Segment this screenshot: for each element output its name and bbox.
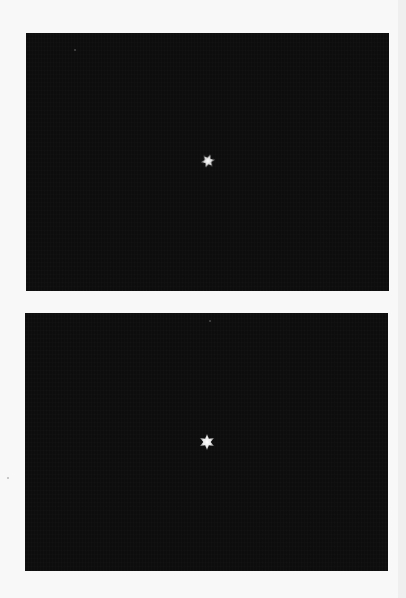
stray-dot: [7, 477, 9, 479]
page-edge-strip: [398, 0, 406, 598]
star-icon: [201, 154, 215, 168]
faint-speck: [74, 49, 76, 51]
star-icon: [199, 434, 215, 450]
faint-speck: [209, 320, 211, 322]
sky-frame-top: [26, 33, 389, 291]
sky-frame-bottom: [25, 313, 388, 571]
page: [0, 0, 406, 598]
